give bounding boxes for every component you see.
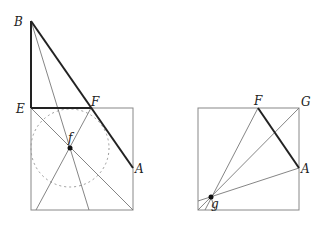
line-B-bottom [31,21,89,210]
label-A: A [300,162,310,176]
label-F: F [253,94,263,108]
label-g: g [211,197,219,211]
segment-FA [258,108,299,168]
line-G-g [198,108,299,210]
line-F-bottom [36,108,91,210]
label-B: B [13,15,23,29]
right-figure: F G A g [198,94,311,211]
point-f [68,146,73,151]
label-G: G [301,95,311,109]
label-f: f [67,131,75,145]
line-E-corner [31,108,133,210]
label-E: E [15,102,25,116]
label-A: A [134,162,144,176]
geometry-diagram: B E F A f F G A g [0,0,327,228]
left-figure: B E F A f [13,15,144,210]
label-F: F [90,95,100,109]
segment-BA [31,21,133,168]
